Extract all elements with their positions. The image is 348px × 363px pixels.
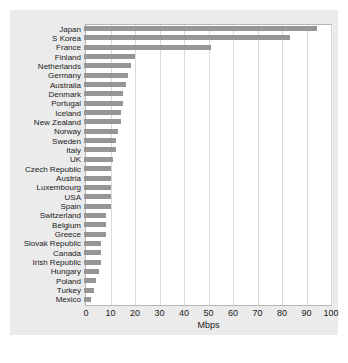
category-label: Luxembourg: [10, 184, 83, 192]
x-tick-label: 60: [228, 308, 238, 319]
bar-row: Sweden: [10, 138, 332, 145]
bar-track: [83, 138, 330, 145]
category-label: Turkey: [10, 287, 83, 295]
x-tick-label: 30: [154, 308, 164, 319]
category-label: Greece: [10, 231, 83, 239]
bar-row: Japan: [10, 26, 332, 33]
bar-row: Italy: [10, 147, 332, 154]
bar-track: [83, 35, 330, 42]
bar: [84, 250, 101, 255]
bar-rows: JapanS KoreaFranceFinlandNetherlandsGerm…: [10, 24, 332, 306]
category-label: Denmark: [10, 91, 83, 99]
category-label: Canada: [10, 250, 83, 258]
bar-row: Mexico: [10, 297, 332, 304]
bar-track: [83, 213, 330, 220]
bar: [84, 157, 113, 162]
bar-track: [83, 241, 330, 248]
bar-track: [83, 26, 330, 33]
x-tick-label: 50: [203, 308, 213, 319]
figure: JapanS KoreaFranceFinlandNetherlandsGerm…: [0, 0, 348, 363]
bar: [84, 213, 106, 218]
category-label: Czech Republic: [10, 166, 83, 174]
category-label: Iceland: [10, 110, 83, 118]
bar: [84, 101, 123, 106]
category-label: Spain: [10, 203, 83, 211]
bar-row: USA: [10, 194, 332, 201]
bar: [84, 119, 121, 124]
bar: [84, 260, 101, 265]
bar: [84, 91, 123, 96]
bar-track: [83, 269, 330, 276]
bar: [84, 185, 111, 190]
bar: [84, 288, 94, 293]
bar-track: [83, 63, 330, 70]
bar: [84, 26, 317, 31]
category-label: France: [10, 44, 83, 52]
bar-row: Irish Republic: [10, 260, 332, 267]
bar-row: Hungary: [10, 269, 332, 276]
bar-row: Poland: [10, 278, 332, 285]
category-label: Mexico: [10, 296, 83, 304]
category-label: New Zealand: [10, 119, 83, 127]
x-tick-label: 0: [83, 308, 88, 319]
bar: [84, 147, 116, 152]
bar: [84, 269, 99, 274]
bar: [84, 176, 111, 181]
category-label: Germany: [10, 72, 83, 80]
x-tick-label: 100: [323, 308, 338, 319]
bar-row: Australia: [10, 82, 332, 89]
bar-row: Turkey: [10, 288, 332, 295]
category-label: Portugal: [10, 100, 83, 108]
bar-row: Slovak Republic: [10, 241, 332, 248]
bar-row: UK: [10, 157, 332, 164]
x-tick-label: 10: [105, 308, 115, 319]
bar-row: Netherlands: [10, 63, 332, 70]
category-label: Hungary: [10, 268, 83, 276]
category-label: Switzerland: [10, 212, 83, 220]
x-tick-label: 70: [252, 308, 262, 319]
bar-row: Luxembourg: [10, 185, 332, 192]
bar-row: Austria: [10, 176, 332, 183]
bar-row: S Korea: [10, 35, 332, 42]
bar-track: [83, 147, 330, 154]
bar: [84, 204, 111, 209]
bar-row: Canada: [10, 250, 332, 257]
category-label: Poland: [10, 278, 83, 286]
bar-track: [83, 54, 330, 61]
bar-track: [83, 204, 330, 211]
bar-track: [83, 176, 330, 183]
bar-track: [83, 45, 330, 52]
bar-row: Belgium: [10, 222, 332, 229]
bar-row: New Zealand: [10, 119, 332, 126]
bar-track: [83, 157, 330, 164]
bar-track: [83, 222, 330, 229]
category-label: Netherlands: [10, 63, 83, 71]
category-label: Australia: [10, 82, 83, 90]
category-label: UK: [10, 156, 83, 164]
category-label: Austria: [10, 175, 83, 183]
bar-track: [83, 232, 330, 239]
category-label: Finland: [10, 54, 83, 62]
bar-track: [83, 194, 330, 201]
category-label: Sweden: [10, 138, 83, 146]
bar-track: [83, 110, 330, 117]
bar: [84, 82, 126, 87]
bar-track: [83, 82, 330, 89]
bar-row: Norway: [10, 129, 332, 136]
category-label: S Korea: [10, 35, 83, 43]
bar: [84, 73, 128, 78]
bar-row: Denmark: [10, 91, 332, 98]
bar: [84, 297, 91, 302]
x-tick-label: 40: [179, 308, 189, 319]
bar-track: [83, 297, 330, 304]
bar: [84, 278, 96, 283]
bar: [84, 45, 211, 50]
bar-row: Portugal: [10, 101, 332, 108]
x-tick-label: 90: [301, 308, 311, 319]
bar-track: [83, 91, 330, 98]
bar: [84, 241, 101, 246]
bar: [84, 35, 290, 40]
bar-row: Czech Republic: [10, 166, 332, 173]
bar-track: [83, 166, 330, 173]
bar-track: [83, 101, 330, 108]
